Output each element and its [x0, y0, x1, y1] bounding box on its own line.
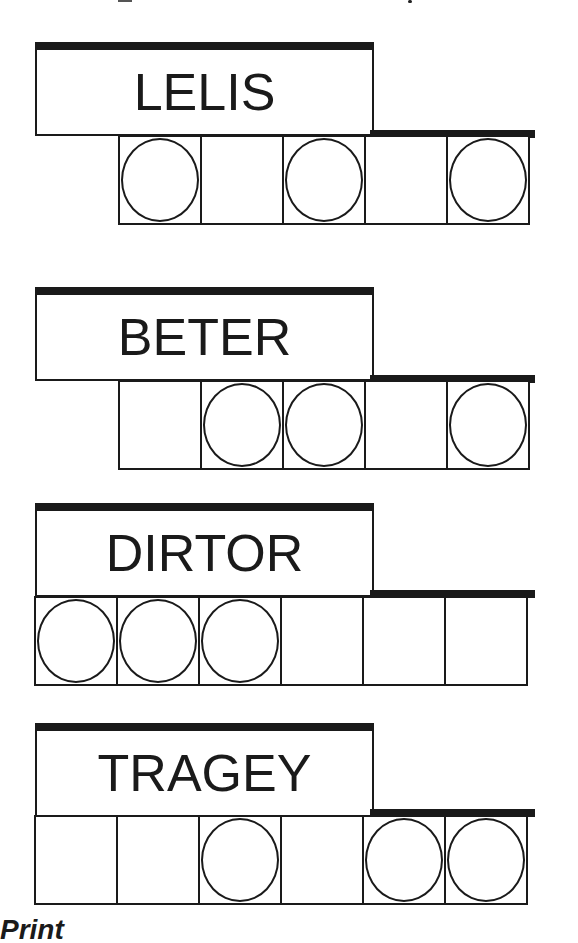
circle-marker-icon	[119, 599, 197, 683]
answer-cell[interactable]	[280, 815, 364, 905]
scrambled-word-box: BETER	[35, 287, 374, 381]
answer-cell-circled[interactable]	[362, 815, 446, 905]
answer-cell[interactable]	[364, 380, 448, 470]
answer-cell-circled[interactable]	[446, 380, 530, 470]
scrambled-word: LELIS	[134, 66, 276, 118]
answer-cell-circled[interactable]	[282, 135, 366, 225]
clipped-top-text	[0, 0, 578, 6]
answer-cell-circled[interactable]	[198, 815, 282, 905]
scrambled-word: TRAGEY	[98, 747, 312, 799]
circle-marker-icon	[447, 818, 525, 902]
answer-cells	[118, 135, 530, 223]
answer-cell-circled[interactable]	[282, 380, 366, 470]
answer-cell[interactable]	[116, 815, 200, 905]
answer-cell[interactable]	[34, 815, 118, 905]
scrambled-word-box: TRAGEY	[35, 723, 374, 817]
scrambled-word: BETER	[118, 311, 291, 363]
scrambled-word-box: LELIS	[35, 42, 374, 136]
clipped-footer-text: Print	[0, 916, 64, 943]
scrambled-word: DIRTOR	[106, 527, 303, 579]
answer-cell[interactable]	[364, 135, 448, 225]
circle-marker-icon	[449, 138, 527, 222]
circle-marker-icon	[37, 599, 115, 683]
circle-marker-icon	[285, 383, 363, 467]
answer-cell-circled[interactable]	[118, 135, 202, 225]
answer-cell-circled[interactable]	[34, 596, 118, 686]
answer-cells	[34, 596, 528, 684]
answer-cell[interactable]	[200, 135, 284, 225]
answer-cell-circled[interactable]	[200, 380, 284, 470]
circle-marker-icon	[201, 599, 279, 683]
answer-cell[interactable]	[444, 596, 528, 686]
answer-cell[interactable]	[362, 596, 446, 686]
circle-marker-icon	[285, 138, 363, 222]
answer-cell[interactable]	[118, 380, 202, 470]
circle-marker-icon	[201, 818, 279, 902]
answer-cell-circled[interactable]	[446, 135, 530, 225]
answer-cells	[34, 815, 528, 903]
circle-marker-icon	[203, 383, 281, 467]
answer-cell-circled[interactable]	[116, 596, 200, 686]
scrambled-word-box: DIRTOR	[35, 503, 374, 597]
answer-cells	[118, 380, 530, 468]
circle-marker-icon	[449, 383, 527, 467]
answer-cell-circled[interactable]	[198, 596, 282, 686]
answer-cell[interactable]	[280, 596, 364, 686]
circle-marker-icon	[365, 818, 443, 902]
circle-marker-icon	[121, 138, 199, 222]
answer-cell-circled[interactable]	[444, 815, 528, 905]
